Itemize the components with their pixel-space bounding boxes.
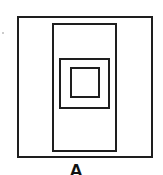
inner-square (70, 67, 100, 98)
scan-speck (2, 32, 4, 34)
figure-label: A (60, 161, 92, 175)
